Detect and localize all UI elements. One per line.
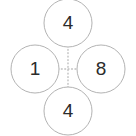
node-left[interactable]: 1 [11, 45, 59, 93]
node-top-label: 4 [63, 12, 74, 33]
node-left-label: 1 [30, 58, 41, 79]
node-top[interactable]: 4 [44, 0, 92, 47]
node-bottom-label: 4 [63, 100, 74, 121]
node-cross-diagram: 4 1 8 4 [0, 0, 136, 136]
diagram-canvas: 4 1 8 4 [0, 0, 136, 136]
node-right-label: 8 [96, 58, 107, 79]
node-right[interactable]: 8 [77, 45, 125, 93]
node-bottom[interactable]: 4 [44, 87, 92, 135]
